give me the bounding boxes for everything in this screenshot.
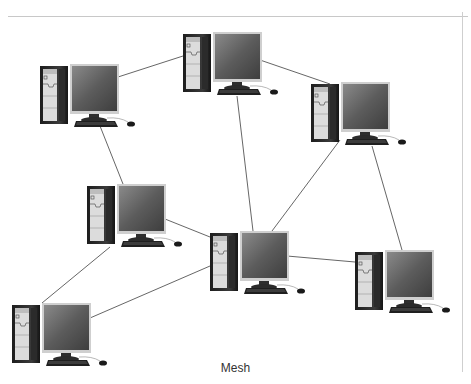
computer-node-4 (87, 182, 187, 248)
edge-pc4-pc7 (42, 247, 110, 303)
computer-node-1 (40, 62, 140, 128)
edge-pc2-pc5 (237, 96, 253, 231)
computer-node-2 (183, 30, 283, 96)
edge-pc3-pc6 (372, 146, 402, 250)
computer-node-6 (355, 248, 455, 314)
computer-node-7 (12, 301, 112, 367)
diagram-caption: Mesh (0, 361, 471, 375)
computer-node-3 (311, 80, 411, 146)
edge-pc1-pc4 (100, 126, 123, 184)
computer-node-5 (210, 229, 310, 295)
edge-pc3-pc5 (272, 140, 340, 231)
